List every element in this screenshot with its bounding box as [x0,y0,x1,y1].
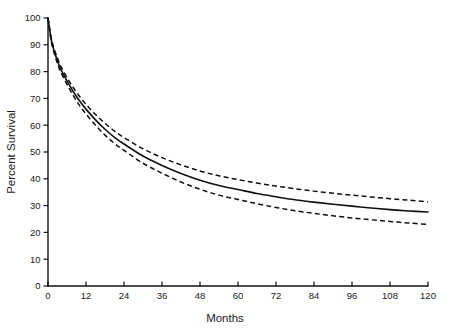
y-tick-label: 0 [35,280,40,291]
x-tick-label: 36 [157,290,168,301]
y-tick-label: 100 [25,12,41,23]
y-tick-label: 40 [30,173,41,184]
y-tick-label: 80 [30,66,41,77]
x-tick-label: 12 [81,290,92,301]
x-tick-label: 60 [233,290,244,301]
upper-confidence-curve [48,18,428,202]
survival-curve-figure: 0102030405060708090100 01224364860728496… [0,0,450,332]
survival-curve [48,18,428,212]
x-tick-label: 96 [347,290,358,301]
y-tick-label: 10 [30,254,41,265]
y-tick-label: 90 [30,39,41,50]
x-tick-label: 48 [195,290,206,301]
y-tick-label: 60 [30,120,41,131]
x-axis-title: Months [206,312,244,324]
chart-canvas: 0102030405060708090100 01224364860728496… [0,0,450,332]
x-tick-label: 120 [420,290,436,301]
x-tick-label: 84 [309,290,320,301]
y-tick-label: 30 [30,200,41,211]
y-tick-label: 50 [30,146,41,157]
y-tick-label: 20 [30,227,41,238]
x-tick-label: 0 [45,290,50,301]
y-axis-title: Percent Survival [5,110,17,194]
y-tick-label: 70 [30,93,41,104]
y-axis: 0102030405060708090100 [25,12,48,291]
lower-confidence-curve [48,18,428,224]
curve-group [48,18,428,224]
x-tick-label: 72 [271,290,282,301]
x-tick-label: 108 [382,290,398,301]
x-axis: 01224364860728496108120 [45,282,436,301]
x-tick-label: 24 [119,290,130,301]
